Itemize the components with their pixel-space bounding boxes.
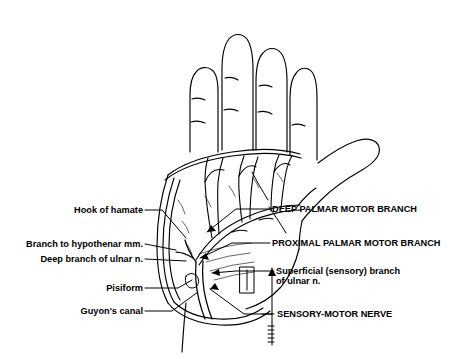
palm-shading: [199, 243, 254, 280]
ring-finger: [256, 49, 287, 153]
thumb: [299, 139, 379, 249]
index-finger: [190, 68, 218, 152]
label-superficial-sensory-branch-line1: Superficial (sensory) branch: [276, 266, 400, 276]
middle-finger: [222, 35, 253, 151]
label-proximal-palmar-motor-branch: PROXIMAL PALMAR MOTOR BRANCH: [272, 238, 440, 248]
little-finger: [290, 68, 317, 160]
label-superficial-sensory-branch: Superficial (sensory) branch of ulnar n.: [276, 266, 400, 287]
label-deep-palmar-motor-branch: DEEP PALMAR MOTOR BRANCH: [272, 204, 417, 214]
label-superficial-sensory-branch-line2: of ulnar n.: [276, 276, 320, 286]
label-sensory-motor-nerve: SENSORY-MOTOR NERVE: [277, 309, 392, 319]
anatomical-figure: Hook of hamate Branch to hypothenar mm. …: [0, 0, 465, 359]
hatch-marker: [268, 322, 274, 345]
label-branch-to-hypothenar: Branch to hypothenar mm.: [26, 239, 143, 249]
label-hook-of-hamate: Hook of hamate: [74, 205, 143, 215]
label-guyons-canal: Guyon's canal: [81, 306, 143, 316]
pisiform-marker: [185, 274, 198, 288]
label-deep-branch-of-ulnar-nerve: Deep branch of ulnar n.: [40, 254, 143, 264]
hand-illustration: [0, 0, 465, 359]
label-pisiform: Pisiform: [106, 283, 143, 293]
